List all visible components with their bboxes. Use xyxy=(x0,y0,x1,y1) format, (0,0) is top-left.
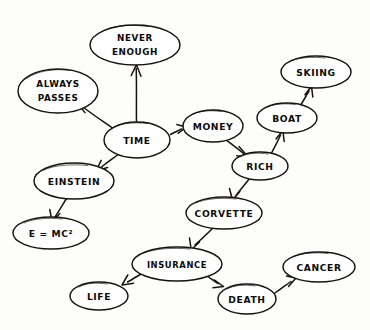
node-layer: NEVER ENOUGH ALWAYS PASSES SKIING BOAT xyxy=(13,25,355,314)
node-skiing[interactable]: SKIING xyxy=(281,56,351,88)
node-boat[interactable]: BOAT xyxy=(257,103,317,133)
node-label-cancer: CANCER xyxy=(296,262,341,273)
node-corvette[interactable]: CORVETTE xyxy=(186,197,262,229)
concept-map-svg: NEVER ENOUGH ALWAYS PASSES SKIING BOAT xyxy=(0,0,370,330)
node-life[interactable]: LIFE xyxy=(70,282,128,310)
edge-corvette-insurance[interactable] xyxy=(190,228,214,250)
node-label-e-mc2: E = MC² xyxy=(29,228,73,239)
node-label-money: MONEY xyxy=(193,121,234,132)
node-e-mc2[interactable]: E = MC² xyxy=(13,217,89,249)
node-rich[interactable]: RICH xyxy=(232,152,288,180)
edge-rich-boat[interactable] xyxy=(272,131,285,154)
node-label-rich: RICH xyxy=(246,161,273,172)
node-label-never-enough-line2: ENOUGH xyxy=(112,47,158,57)
node-label-always-passes-line2: PASSES xyxy=(38,93,79,103)
node-always-passes[interactable]: ALWAYS PASSES xyxy=(18,69,98,113)
node-label-death: DEATH xyxy=(228,294,265,305)
edge-time-never-enough[interactable] xyxy=(131,65,141,123)
node-death[interactable]: DEATH xyxy=(218,284,276,314)
diagram-canvas: NEVER ENOUGH ALWAYS PASSES SKIING BOAT xyxy=(0,0,370,330)
node-time[interactable]: TIME xyxy=(104,122,170,158)
node-insurance[interactable]: INSURANCE xyxy=(132,247,222,281)
edge-insurance-death[interactable] xyxy=(207,276,224,288)
node-label-always-passes-line1: ALWAYS xyxy=(36,79,79,89)
edge-boat-skiing[interactable] xyxy=(301,86,313,105)
node-label-skiing: SKIING xyxy=(296,67,335,78)
node-label-never-enough-line1: NEVER xyxy=(117,33,153,43)
node-cancer[interactable]: CANCER xyxy=(283,252,355,282)
node-money[interactable]: MONEY xyxy=(183,110,243,142)
node-label-corvette: CORVETTE xyxy=(195,208,254,219)
edge-death-cancer[interactable] xyxy=(275,276,296,293)
node-label-life: LIFE xyxy=(87,291,111,302)
edge-insurance-life[interactable] xyxy=(122,274,141,285)
node-label-insurance: INSURANCE xyxy=(147,260,207,270)
node-never-enough[interactable]: NEVER ENOUGH xyxy=(90,25,180,65)
node-label-time: TIME xyxy=(123,135,151,146)
node-einstein[interactable]: EINSTEIN xyxy=(34,163,114,199)
node-label-einstein: EINSTEIN xyxy=(48,176,100,187)
node-label-boat: BOAT xyxy=(272,113,302,124)
